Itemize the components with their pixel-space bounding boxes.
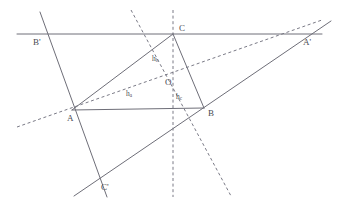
label-point-B: B [208,108,214,118]
label-point-B-prime: B' [33,37,41,47]
dashed-line-group [17,10,322,197]
geometry-canvas: A B C A' B' C' O ha hb hc [0,0,337,207]
altitude-label-group: ha hb hc [126,54,183,101]
geometry-figure: A B C A' B' C' O ha hb hc [0,0,337,207]
altitude-line-h-b [131,10,231,196]
triangle-side-CA [72,34,173,110]
h-c-subscript: c [180,95,183,101]
label-point-C-prime: C' [101,182,109,192]
label-altitude-h-b: hb [152,54,159,63]
label-point-A: A [67,113,74,123]
label-point-C: C [179,23,185,33]
h-b-subscript: b [156,57,159,63]
h-a-subscript: a [130,92,133,98]
label-orthocenter-O: O [165,77,172,87]
label-altitude-h-a: ha [126,89,133,98]
label-point-A-prime: A' [303,37,311,47]
line-B-prime-C-prime [40,12,107,197]
label-altitude-h-c: hc [176,92,183,101]
solid-line-group [17,12,331,197]
